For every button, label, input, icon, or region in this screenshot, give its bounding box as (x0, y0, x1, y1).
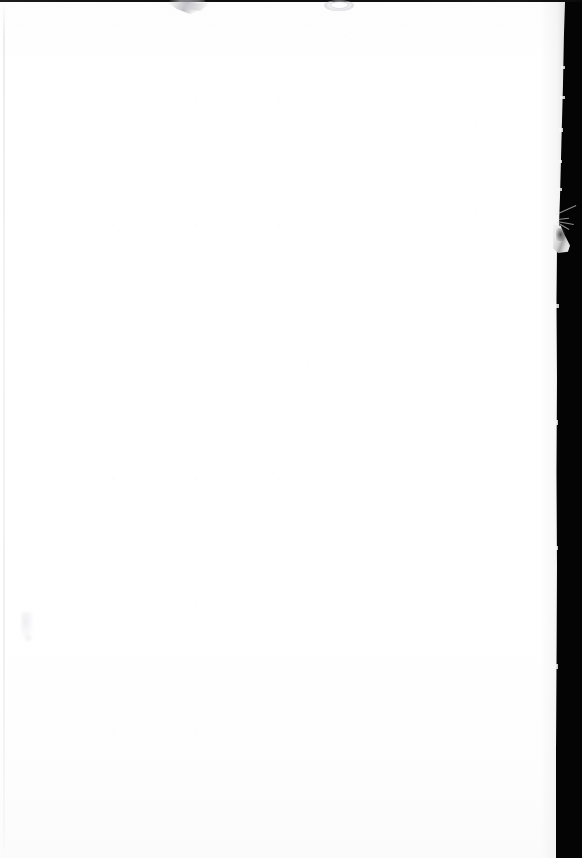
edge-nick (558, 188, 562, 191)
page-edge-tear-shadow (556, 228, 565, 241)
edge-nick (559, 128, 563, 132)
paper-sheet (0, 0, 582, 858)
paper-grain-texture (0, 0, 582, 858)
edge-nick (555, 420, 558, 425)
top-edge-strip (0, 0, 582, 2)
edge-nick (559, 160, 562, 163)
edge-nick (561, 66, 565, 69)
left-page-edge-line (3, 2, 5, 858)
edge-nick (560, 96, 565, 99)
lower-left-blemish-secondary (24, 634, 33, 642)
scanned-page-canvas (0, 0, 582, 858)
edge-nick (555, 664, 558, 669)
edge-nick (556, 304, 559, 308)
edge-nick (555, 546, 558, 550)
